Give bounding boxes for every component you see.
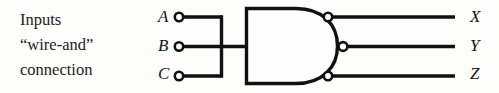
- schematic-drawing: [0, 0, 499, 93]
- input-wires-group: [183, 15, 246, 77]
- terminal-c-icon[interactable]: [175, 72, 183, 80]
- output-wires-group: [331, 17, 455, 76]
- input-terminals-group: [175, 13, 183, 80]
- input-label-b: B: [158, 37, 168, 54]
- logic-diagram-figure: Inputs “wire-and” connection: [0, 0, 499, 93]
- terminal-x-icon[interactable]: [324, 13, 332, 21]
- output-label-z: Z: [470, 65, 479, 82]
- input-label-a: A: [158, 8, 168, 25]
- terminal-z-icon[interactable]: [324, 72, 332, 80]
- terminal-y-icon[interactable]: [339, 42, 348, 51]
- terminal-a-icon[interactable]: [175, 13, 183, 21]
- terminal-b-icon[interactable]: [175, 42, 183, 50]
- output-label-y: Y: [470, 37, 479, 54]
- output-label-x: X: [470, 8, 480, 25]
- input-label-c: C: [158, 65, 169, 82]
